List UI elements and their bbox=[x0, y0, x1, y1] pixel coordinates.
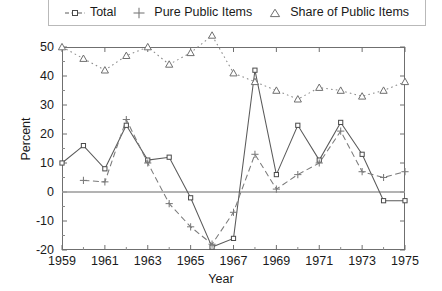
legend-label-share-of-public-items: Share of Public Items bbox=[290, 6, 409, 19]
legend-item-share-of-public-items: Share of Public Items bbox=[265, 6, 409, 19]
y-tick-label: 10 bbox=[14, 157, 54, 170]
x-tick-label: 1969 bbox=[254, 255, 298, 268]
y-tick-label: -10 bbox=[14, 215, 54, 228]
legend-item-pure-public-items: Pure Public Items bbox=[129, 6, 252, 19]
plus-marker-icon bbox=[129, 7, 149, 19]
y-tick-label: 20 bbox=[14, 128, 54, 141]
y-tick-label: 0 bbox=[14, 186, 54, 199]
x-tick-label: 1973 bbox=[340, 255, 384, 268]
legend-label-pure-public-items: Pure Public Items bbox=[154, 6, 252, 19]
legend-item-total: Total bbox=[65, 6, 116, 19]
x-tick-label: 1967 bbox=[212, 255, 256, 268]
chart-legend: Total Pure Public Items Share of Public … bbox=[48, 0, 426, 26]
y-tick-label: 50 bbox=[14, 41, 54, 54]
triangle-marker-icon bbox=[265, 7, 285, 19]
x-axis-title: Year bbox=[0, 272, 442, 286]
x-tick-label: 1965 bbox=[169, 255, 213, 268]
chart-figure: Total Pure Public Items Share of Public … bbox=[0, 0, 442, 291]
y-tick-label: 40 bbox=[14, 70, 54, 83]
x-tick-label: 1975 bbox=[383, 255, 427, 268]
x-tick-label: 1961 bbox=[83, 255, 127, 268]
x-tick-label: 1971 bbox=[297, 255, 341, 268]
x-tick-label: 1963 bbox=[126, 255, 170, 268]
plot-area bbox=[62, 47, 405, 250]
y-tick-label: 30 bbox=[14, 99, 54, 112]
square-dashed-marker-icon bbox=[65, 7, 85, 19]
legend-label-total: Total bbox=[90, 6, 116, 19]
x-tick-label: 1959 bbox=[40, 255, 84, 268]
